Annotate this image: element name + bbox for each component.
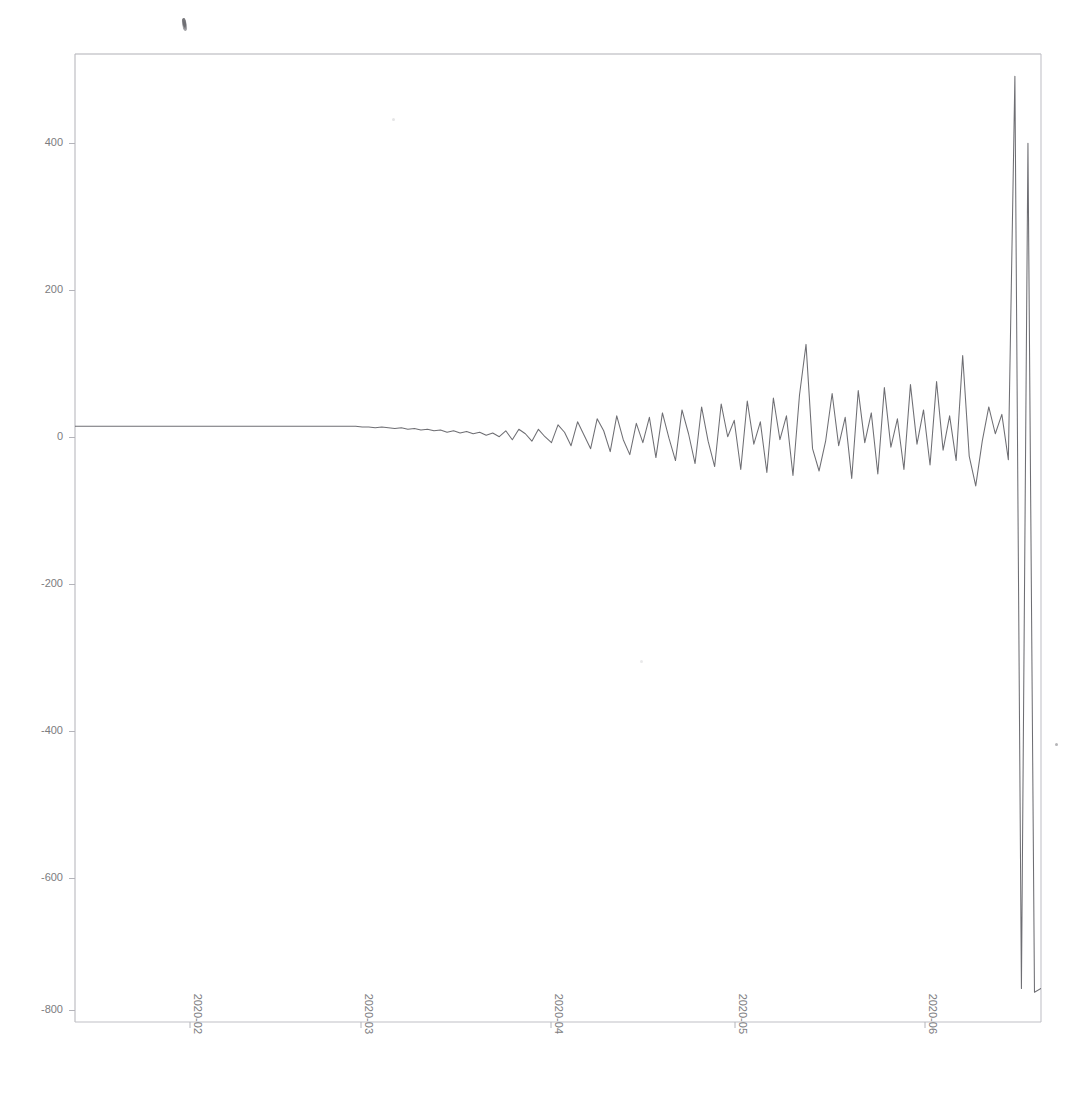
- time-series-chart: 400 200 0 -200 -400 -600: [0, 0, 1085, 1101]
- x-tick-label: 2020-03: [363, 994, 375, 1034]
- scan-speck-icon: [1055, 743, 1058, 746]
- x-tick-label: 2020-04: [553, 994, 565, 1034]
- x-tick-2020-04: 2020-04: [551, 994, 565, 1034]
- y-tick-label: -400: [41, 724, 63, 736]
- x-tick-2020-03: 2020-03: [361, 994, 375, 1034]
- scan-speck-icon: [392, 118, 395, 121]
- y-tick-label: -200: [41, 577, 63, 589]
- y-tick-label: -600: [41, 871, 63, 883]
- y-tick-label: 400: [45, 136, 63, 148]
- y-tick-label: 0: [57, 430, 63, 442]
- x-tick-label: 2020-02: [192, 994, 204, 1034]
- y-tick-label: -800: [41, 1003, 63, 1015]
- x-tick-2020-02: 2020-02: [190, 994, 204, 1034]
- scan-speck-icon: [640, 660, 643, 663]
- x-tick-2020-06: 2020-06: [925, 994, 939, 1034]
- figure-background: [0, 0, 1085, 1101]
- y-tick-label: 200: [45, 283, 63, 295]
- chart-page: 400 200 0 -200 -400 -600: [0, 0, 1085, 1101]
- x-tick-label: 2020-06: [927, 994, 939, 1034]
- x-tick-2020-05: 2020-05: [735, 994, 749, 1034]
- x-tick-label: 2020-05: [737, 994, 749, 1034]
